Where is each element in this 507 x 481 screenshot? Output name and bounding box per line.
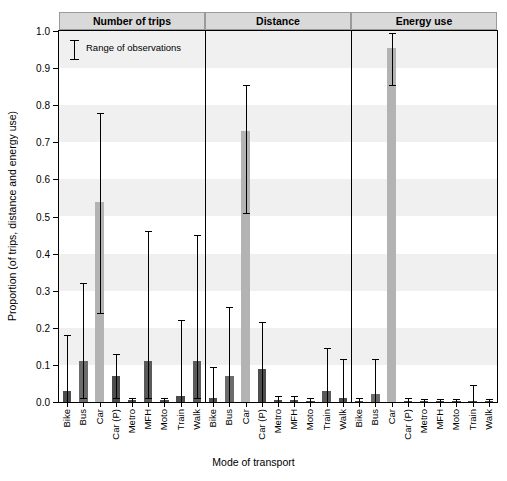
y-tick (53, 68, 58, 69)
error-bar-cap-top (421, 399, 428, 400)
error-bar-cap-bottom (145, 398, 152, 399)
x-tick-label: Car (P) (402, 409, 413, 440)
error-bar-cap-top (340, 359, 347, 360)
x-tick (343, 403, 344, 407)
x-tick (392, 403, 393, 407)
error-bar (67, 335, 68, 402)
y-tick-label: 0.0 (22, 397, 50, 408)
error-bar-cap-top (226, 307, 233, 308)
chart-root: Number of tripsDistanceEnergy use 0.00.1… (0, 0, 507, 481)
y-axis-label: Proportion (of trips, distance and energ… (6, 50, 18, 381)
x-tick-label: Bus (369, 409, 380, 425)
x-tick (197, 403, 198, 407)
y-tick (53, 105, 58, 106)
x-tick-label: Bike (61, 409, 72, 427)
panel-separator (205, 31, 206, 402)
error-bar-cap-top (291, 396, 298, 397)
y-tick (53, 217, 58, 218)
error-bar-cap-top (389, 33, 396, 34)
error-bar-cap-bottom (243, 213, 250, 214)
error-bar (343, 359, 344, 402)
y-tick-label: 0.3 (22, 286, 50, 297)
x-axis-label: Mode of transport (0, 456, 507, 468)
x-tick (262, 403, 263, 407)
x-tick (148, 403, 149, 407)
error-bar (181, 320, 182, 402)
y-tick-label: 0.6 (22, 174, 50, 185)
x-tick (375, 403, 376, 407)
x-tick-label: MFH (142, 409, 153, 430)
error-bar (213, 367, 214, 402)
error-bar-cap-top (161, 398, 168, 399)
plot-band (59, 105, 497, 142)
legend-whisker (74, 40, 75, 59)
plot-band (59, 328, 497, 365)
y-tick (53, 254, 58, 255)
x-tick (424, 403, 425, 407)
x-tick (310, 403, 311, 407)
y-tick-label: 0.7 (22, 137, 50, 148)
x-tick (327, 403, 328, 407)
x-tick-label: Car (386, 409, 397, 424)
error-bar-cap-top (97, 113, 104, 114)
error-bar (473, 385, 474, 402)
x-tick-label: Car (P) (256, 409, 267, 440)
error-bar-cap-top (259, 322, 266, 323)
legend-cap-bottom (70, 59, 79, 60)
error-bar (116, 354, 117, 399)
error-bar-cap-top (372, 359, 379, 360)
y-tick (53, 402, 58, 403)
x-tick-label: Moto (450, 409, 461, 430)
x-tick-label: Metro (126, 409, 137, 433)
x-tick (473, 403, 474, 407)
x-tick (83, 403, 84, 407)
x-tick (359, 403, 360, 407)
x-tick-label: Moto (304, 409, 315, 430)
x-tick (278, 403, 279, 407)
error-bar (148, 231, 149, 398)
bar (387, 48, 395, 402)
x-tick (489, 403, 490, 407)
error-bar-cap-top (470, 385, 477, 386)
error-bar-cap-top (64, 335, 71, 336)
error-bar-cap-top (210, 367, 217, 368)
error-bar-cap-bottom (97, 313, 104, 314)
error-bar (229, 307, 230, 402)
x-tick-label: Moto (158, 409, 169, 430)
y-tick-label: 0.8 (22, 100, 50, 111)
plot-area (58, 30, 498, 403)
plot-band (59, 179, 497, 216)
x-tick-label: Car (94, 409, 105, 424)
error-bar-cap-bottom (389, 85, 396, 86)
y-axis: 0.00.10.20.30.40.50.60.70.80.91.0 (20, 31, 58, 402)
error-bar (392, 33, 393, 85)
legend: Range of observations (68, 38, 248, 62)
y-tick (53, 31, 58, 32)
x-tick-label: Bike (207, 409, 218, 427)
error-bar-cap-top (129, 398, 136, 399)
error-bar (375, 359, 376, 402)
x-tick-label: Train (467, 409, 478, 430)
error-bar-cap-top (324, 348, 331, 349)
y-tick (53, 365, 58, 366)
y-tick (53, 291, 58, 292)
x-tick-label: Car (P) (110, 409, 121, 440)
error-bar-cap-top (307, 398, 314, 399)
y-tick-label: 1.0 (22, 26, 50, 37)
plot-band (59, 254, 497, 291)
error-bar (83, 283, 84, 398)
panel-header-distance: Distance (205, 12, 351, 30)
x-tick (67, 403, 68, 407)
x-tick (246, 403, 247, 407)
x-tick-label: Car (240, 409, 251, 424)
error-bar-cap-bottom (194, 398, 201, 399)
x-tick (132, 403, 133, 407)
error-bar-cap-top (145, 231, 152, 232)
x-tick (213, 403, 214, 407)
x-tick (440, 403, 441, 407)
panel-header-energy-use: Energy use (351, 12, 497, 30)
x-tick-label: Bike (353, 409, 364, 427)
x-tick-label: MFH (434, 409, 445, 430)
error-bar-cap-top (437, 399, 444, 400)
x-tick (116, 403, 117, 407)
